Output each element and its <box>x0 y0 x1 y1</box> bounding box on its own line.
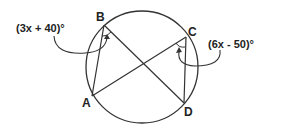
point-label-b: B <box>96 10 105 24</box>
arrow-c-icon <box>176 47 182 53</box>
point-label-c: C <box>188 25 197 39</box>
point-label-d: D <box>184 105 193 119</box>
angle-c-arc <box>176 43 185 47</box>
segment-ac <box>92 37 186 96</box>
point-label-a: A <box>82 96 91 110</box>
angle-b-callout <box>54 36 107 53</box>
angle-b-expression: (3x + 40)° <box>16 22 65 34</box>
circle <box>86 11 198 123</box>
angle-c-expression: (6x - 50)° <box>208 38 254 50</box>
inscribed-angles-diagram: B C A D (3x + 40)° (6x - 50)° <box>0 0 285 129</box>
